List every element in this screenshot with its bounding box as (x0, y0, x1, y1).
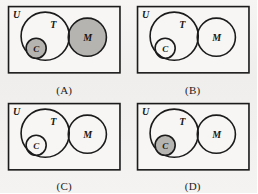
set-c-label-d: C (162, 141, 169, 151)
universe-rect-b (137, 7, 248, 73)
panel-d-diagram: U T M C (129, 97, 258, 194)
set-m-label-a: M (82, 32, 93, 43)
panel-d-caption: (D) (129, 181, 258, 192)
universe-rect-c (9, 103, 120, 169)
panel-c-diagram: U T M C (0, 97, 129, 194)
universe-label-c: U (13, 106, 21, 117)
set-c-label-b: C (162, 44, 169, 54)
set-c-label-a: C (33, 44, 40, 54)
venn-diagram-figure: U T M C (A) U T (0, 0, 257, 193)
panel-a[interactable]: U T M C (A) (0, 0, 129, 97)
universe-rect-d (137, 103, 248, 169)
set-m-label-c: M (82, 129, 93, 140)
set-t-label-b: T (179, 19, 186, 30)
panel-b-caption: (B) (129, 85, 258, 96)
panel-c[interactable]: U T M C (C) (0, 97, 129, 194)
panel-b-diagram: U T M C (129, 0, 258, 97)
set-t-label-d: T (179, 116, 186, 127)
universe-label-b: U (142, 9, 150, 20)
set-t-label-a: T (50, 19, 57, 30)
panel-d[interactable]: U T M C (D) (129, 97, 258, 194)
set-c-label-c: C (33, 141, 40, 151)
panel-a-caption: (A) (0, 85, 129, 96)
panel-a-diagram: U T M C (0, 0, 129, 97)
set-m-label-d: M (211, 129, 222, 140)
set-t-label-c: T (50, 116, 57, 127)
universe-label-d: U (142, 106, 150, 117)
panel-grid: U T M C (A) U T (0, 0, 257, 193)
universe-label-a: U (13, 9, 21, 20)
panel-b[interactable]: U T M C (B) (129, 0, 258, 97)
set-m-label-b: M (211, 32, 222, 43)
panel-c-caption: (C) (0, 181, 129, 192)
